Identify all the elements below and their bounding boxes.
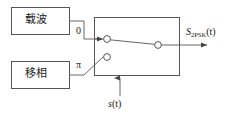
wire-switch-arm	[110, 40, 155, 45]
output-argument: (t)	[206, 26, 215, 37]
switch-contact-pi	[104, 54, 111, 61]
phase-shifter-block-label: 移相	[25, 68, 47, 79]
branch-pi-label: π	[76, 60, 81, 70]
control-argument: (t)	[112, 98, 121, 109]
carrier-block-label: 载波	[25, 14, 47, 25]
control-signal-label: s(t)	[108, 99, 121, 109]
switch-pivot	[155, 42, 162, 49]
output-signal-label: S2PSK(t)	[186, 27, 216, 37]
diagram-canvas: 载波 移相 0 π S2PSK(t) s(t)	[0, 0, 229, 117]
wire-phase-to-pi	[70, 57, 104, 75]
switch-block	[95, 18, 180, 76]
output-subscript: 2PSK	[191, 31, 206, 38]
branch-zero-label: 0	[76, 26, 81, 36]
switch-contact-zero	[104, 36, 111, 43]
